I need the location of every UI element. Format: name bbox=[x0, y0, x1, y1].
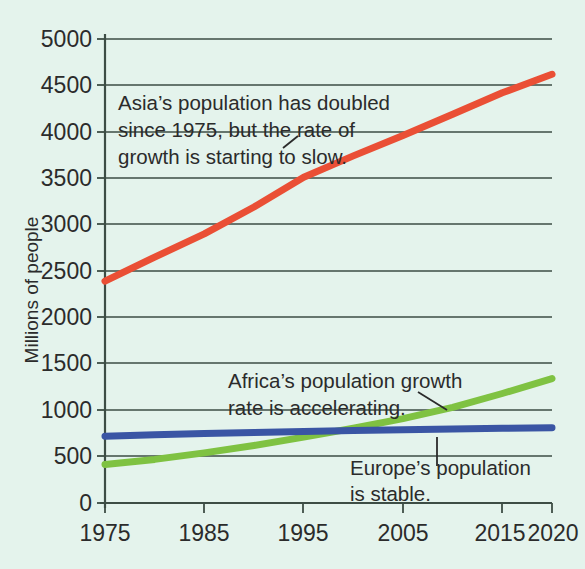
annotation-asia-line-2: since 1975, but the rate of bbox=[118, 118, 355, 141]
y-tick-label-1000: 1000 bbox=[41, 397, 92, 423]
chart-canvas: 5000 4500 4000 3500 3000 2500 2000 1500 … bbox=[0, 0, 585, 569]
y-tick-label-2000: 2000 bbox=[41, 304, 92, 330]
annotation-asia-line-1: Asia’s population has doubled bbox=[118, 91, 390, 114]
y-tick-label-5000: 5000 bbox=[41, 26, 92, 52]
x-tick-label-2020: 2020 bbox=[527, 520, 578, 546]
x-tick-label-1985: 1985 bbox=[178, 520, 229, 546]
y-tick-label-3500: 3500 bbox=[41, 165, 92, 191]
annotation-europe-line-2: is stable. bbox=[350, 482, 431, 505]
x-tick-label-2015: 2015 bbox=[474, 520, 525, 546]
y-tick-label-4500: 4500 bbox=[41, 72, 92, 98]
y-tick-label-2500: 2500 bbox=[41, 258, 92, 284]
annotation-asia-line-3: growth is starting to slow. bbox=[118, 145, 347, 168]
y-tick-label-0: 0 bbox=[79, 490, 92, 516]
y-axis-title: Millions of people bbox=[21, 217, 42, 364]
y-tick-label-4000: 4000 bbox=[41, 119, 92, 145]
y-tick-label-500: 500 bbox=[54, 443, 92, 469]
x-tick-label-1995: 1995 bbox=[277, 520, 328, 546]
annotation-africa-line-1: Africa’s population growth bbox=[228, 369, 462, 392]
annotation-africa-line-2: rate is accelerating. bbox=[228, 396, 406, 419]
x-tick-label-2005: 2005 bbox=[377, 520, 428, 546]
x-tick-label-1975: 1975 bbox=[79, 520, 130, 546]
y-tick-label-3000: 3000 bbox=[41, 211, 92, 237]
population-line-chart: 5000 4500 4000 3500 3000 2500 2000 1500 … bbox=[0, 0, 585, 569]
y-tick-label-1500: 1500 bbox=[41, 350, 92, 376]
annotation-europe-line-1: Europe’s population bbox=[350, 456, 531, 479]
